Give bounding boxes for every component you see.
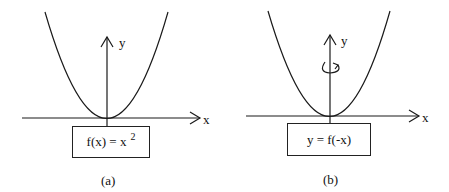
formula-box-b: y = f(-x) [287, 123, 371, 156]
y-axis-label-b: y [341, 34, 348, 47]
panel-a-graph [22, 12, 200, 127]
caption-b: (b) [323, 173, 338, 186]
panel-b-graph [246, 11, 419, 124]
formula-text-b: y = f(-x) [307, 132, 351, 148]
formula-exponent-a: 2 [130, 131, 135, 142]
formula-text-a: f(x) = x [87, 134, 127, 150]
rotation-arrow-icon [322, 62, 339, 73]
caption-a: (a) [101, 174, 115, 187]
parabola-b [268, 11, 390, 117]
diagram-canvas [0, 0, 449, 192]
x-axis-label-b: x [422, 111, 429, 124]
y-axis-label-a: y [119, 36, 126, 49]
formula-box-a: f(x) = x2 [72, 126, 150, 158]
x-axis-label-a: x [203, 113, 210, 126]
